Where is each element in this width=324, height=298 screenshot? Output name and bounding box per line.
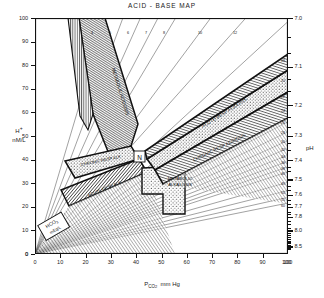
ph-tick-7.0 [288,18,293,19]
y2-axis-label: pH [306,145,314,151]
label-metabolic-alkalosis-1: METABOLIC [168,176,193,181]
plot-area: N METABOLIC ACIDOSIS CHRONIC RESP ALK AC… [35,18,288,254]
ph-minor-tick-14 [288,212,291,213]
y-tick-50 [31,136,35,137]
x-axis-label-sub: CO2 [148,284,157,289]
x-tick-label-70: 70 [209,259,215,265]
ph-tick-label-7.7: 7.7 [295,203,303,209]
ph-minor-tick-2 [288,79,291,80]
x-tick-label-0: 0 [33,259,36,265]
ph-tick-label-7.8: 7.8 [295,213,303,219]
isopleth-label-r-60: 60 [281,204,285,208]
x-tick-60 [187,254,188,258]
isopleth-label-r-40: 40 [281,172,285,176]
isopleth-label-r-24: 24 [281,109,285,113]
ph-minor-tick-16 [288,221,291,222]
x-tick-label-40: 40 [133,259,139,265]
x-tick-70 [212,254,213,258]
isopleth-label-r-36: 36 [281,161,285,165]
ph-tick-label-7.3: 7.3 [295,132,303,138]
ph-minor-tick-0 [288,37,291,38]
ph-tick-7.7 [288,207,293,208]
x-tick-20 [86,254,87,258]
ph-minor-tick-29 [288,249,291,250]
ph-minor-tick-26 [288,245,291,246]
x-tick-50 [162,254,163,258]
ph-minor-tick-13 [288,204,291,205]
y-tick-label-90: 90 [22,38,28,44]
y-tick-label-50: 50 [22,133,28,139]
y-tick-label-80: 80 [22,62,28,68]
y-axis-label-sup: + [20,125,23,131]
y-tick-label-20: 20 [22,203,28,209]
isopleth-label-r-38: 38 [281,167,285,171]
ph-tick-7.5 [288,179,293,180]
x-tick-label-60: 60 [184,259,190,265]
ph-tick-label-7.1: 7.1 [295,63,303,69]
x-tick-label-80: 80 [234,259,240,265]
isopleth-label-r-22: 22 [281,95,285,99]
ph-tick-7.4 [288,160,293,161]
y-tick-label-70: 70 [22,85,28,91]
ph-tick-label-8.5: 8.5 [295,243,303,249]
x-tick-40 [136,254,137,258]
ph-minor-tick-9 [288,171,291,172]
ph-minor-tick-7 [288,150,291,151]
ph-minor-tick-15 [288,214,291,215]
ph-tick-label-7.2: 7.2 [295,102,303,108]
x-tick-90 [263,254,264,258]
ph-minor-tick-8 [288,167,291,168]
x-tick-label-20: 20 [82,259,88,265]
isopleth-label-r-18: 18 [281,59,285,63]
isopleth-label-r-28: 28 [281,131,285,135]
x-tick-label-0-left: 0 [25,251,28,257]
isopleth-label-10: 10 [198,31,202,35]
isopleth-label-r-26: 26 [281,121,285,125]
y-tick-10 [31,230,35,231]
y-tick-90 [31,42,35,43]
isopleth-label-r-34: 34 [281,155,285,159]
ph-minor-tick-20 [288,235,291,236]
ph-tick-label-7.0: 7.0 [295,15,303,21]
x-axis-units: mm Hg [161,281,180,287]
ph-minor-tick-17 [288,224,291,225]
normal-point-label: N [137,154,142,161]
isopleth-label-r-50: 50 [281,191,285,195]
ph-tick-label-7.6: 7.6 [295,191,303,197]
ph-minor-tick-19 [288,233,291,234]
isopleth-label-6: 6 [127,31,129,35]
ph-minor-tick-3 [288,91,291,92]
x-tick-80 [237,254,238,258]
isopleth-labels-right: 18 20 22 24 26 28 30 32 34 36 38 40 45 5… [281,59,285,208]
isopleth-label-r-45: 45 [281,182,285,186]
ph-minor-tick-18 [288,228,291,229]
x-tick-label-90: 90 [260,259,266,265]
ph-tick-7.3 [288,136,293,137]
ph-minor-tick-6 [288,143,291,144]
isopleth-label-4: 4 [91,31,93,35]
x-tick-label-10: 10 [57,259,63,265]
ph-minor-tick-1 [288,53,291,54]
y-tick-label-30: 30 [22,180,28,186]
ph-tick-7.8 [288,217,293,218]
y-tick-20 [31,207,35,208]
ph-minor-tick-5 [288,127,291,128]
isopleth-label-r-30: 30 [281,140,285,144]
y-tick-0 [31,254,35,255]
acid-base-nomogram-svg: N METABOLIC ACIDOSIS CHRONIC RESP ALK AC… [35,18,288,254]
ph-tick-7.1 [288,67,293,68]
y-tick-label-40: 40 [22,156,28,162]
ph-tick-7.6 [288,195,293,196]
label-metabolic-alkalosis-2: ALKALOSIS [168,182,192,187]
ph-minor-tick-11 [288,190,291,191]
x-tick-30 [111,254,112,258]
ph-tick-label-7.4: 7.4 [295,157,303,163]
isopleth-label-r-32: 32 [281,148,285,152]
ph-minor-tick-4 [288,117,291,118]
isopleth-label-5: 5 [109,31,111,35]
isopleth-label-12: 12 [233,31,237,35]
y-tick-label-100: 100 [19,15,28,21]
ph-tick-label-7.5: 7.5 [295,176,303,182]
x-tick-label-50: 50 [158,259,164,265]
ph-tick-7.2 [288,105,293,106]
